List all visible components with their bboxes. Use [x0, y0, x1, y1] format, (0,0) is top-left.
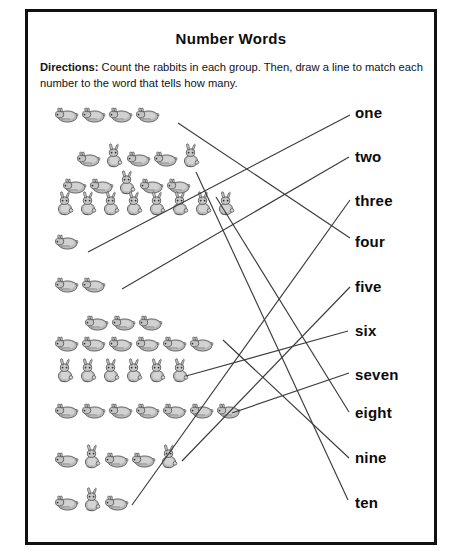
rabbit-subrow: [54, 231, 80, 251]
rabbit-icon: [103, 142, 125, 168]
rabbit-icon: [54, 400, 80, 420]
rabbit-icon: [131, 449, 157, 469]
rabbit-icon: [76, 148, 102, 168]
directions-label: Directions:: [40, 61, 98, 73]
rabbit-icon: [169, 190, 191, 216]
rabbit-icon: [81, 104, 107, 124]
rabbit-icon: [153, 148, 179, 168]
rabbit-icon: [81, 400, 107, 420]
rabbit-icon: [100, 190, 122, 216]
number-word-nine[interactable]: nine: [355, 449, 387, 466]
rabbit-subrow: [54, 333, 215, 353]
rabbit-icon: [81, 486, 103, 512]
rabbit-icon: [54, 104, 80, 124]
number-word-one[interactable]: one: [355, 104, 382, 121]
rabbit-icon: [135, 400, 161, 420]
rabbit-icon: [158, 443, 180, 469]
rabbit-icon: [215, 190, 237, 216]
rabbit-subrow: [54, 274, 107, 294]
rabbit-icon: [135, 104, 161, 124]
rabbit-icon: [81, 333, 107, 353]
rabbit-subrow: [54, 443, 180, 469]
number-word-six[interactable]: six: [355, 322, 376, 339]
rabbit-icon: [54, 357, 76, 383]
number-word-four[interactable]: four: [355, 233, 385, 250]
rabbit-group[interactable]: [54, 274, 107, 294]
rabbit-icon: [54, 333, 80, 353]
rabbit-icon: [123, 190, 145, 216]
rabbit-icon: [169, 357, 191, 383]
rabbit-subrow: [54, 104, 161, 124]
rabbit-group[interactable]: [62, 142, 202, 195]
number-word-five[interactable]: five: [355, 278, 382, 295]
rabbit-group[interactable]: [54, 443, 180, 469]
rabbit-group[interactable]: [54, 104, 161, 124]
rabbit-icon: [81, 274, 107, 294]
number-word-seven[interactable]: seven: [355, 366, 399, 383]
rabbit-icon: [192, 190, 214, 216]
rabbit-icon: [54, 190, 76, 216]
rabbit-group[interactable]: [54, 190, 237, 216]
rabbit-icon: [100, 357, 122, 383]
rabbit-icon: [111, 312, 137, 332]
number-word-three[interactable]: three: [355, 192, 393, 209]
rabbit-icon: [126, 148, 152, 168]
rabbit-subrow: [54, 486, 130, 512]
rabbit-icon: [162, 400, 188, 420]
rabbit-icon: [77, 357, 99, 383]
page-title: Number Words: [25, 30, 437, 47]
rabbit-icon: [54, 274, 80, 294]
rabbit-subrow: [54, 190, 237, 216]
number-word-eight[interactable]: eight: [355, 404, 392, 421]
rabbit-icon: [104, 492, 130, 512]
rabbit-group[interactable]: [54, 357, 191, 383]
rabbit-icon: [189, 400, 215, 420]
rabbit-group[interactable]: [54, 486, 130, 512]
rabbit-icon: [123, 357, 145, 383]
rabbit-icon: [108, 104, 134, 124]
rabbit-icon: [135, 333, 161, 353]
rabbit-subrow: [54, 357, 191, 383]
rabbit-icon: [138, 312, 164, 332]
rabbit-icon: [162, 333, 188, 353]
rabbit-icon: [104, 449, 130, 469]
number-word-two[interactable]: two: [355, 148, 381, 165]
rabbit-icon: [108, 400, 134, 420]
rabbit-subrow: [84, 312, 215, 332]
rabbit-icon: [54, 449, 80, 469]
rabbit-icon: [84, 312, 110, 332]
rabbit-icon: [77, 190, 99, 216]
rabbit-group[interactable]: [54, 231, 80, 251]
rabbit-group[interactable]: [54, 312, 215, 353]
worksheet-page: Number Words Directions: Count the rabbi…: [0, 0, 462, 556]
directions-block: Directions: Count the rabbits in each gr…: [40, 60, 425, 92]
rabbit-icon: [81, 443, 103, 469]
rabbit-subrow: [76, 142, 202, 168]
rabbit-groups-column: [36, 104, 286, 534]
number-words-column: onetwothreefourfivesixseveneightnineten: [355, 104, 435, 524]
rabbit-icon: [180, 142, 202, 168]
rabbit-icon: [54, 231, 80, 251]
rabbit-icon: [146, 357, 168, 383]
rabbit-icon: [54, 492, 80, 512]
rabbit-subrow: [54, 400, 242, 420]
rabbit-icon: [216, 400, 242, 420]
rabbit-icon: [189, 333, 215, 353]
directions-text: Count the rabbits in each group. Then, d…: [40, 61, 423, 89]
rabbit-icon: [108, 333, 134, 353]
number-word-ten[interactable]: ten: [355, 494, 378, 511]
rabbit-group[interactable]: [54, 400, 242, 420]
rabbit-icon: [146, 190, 168, 216]
